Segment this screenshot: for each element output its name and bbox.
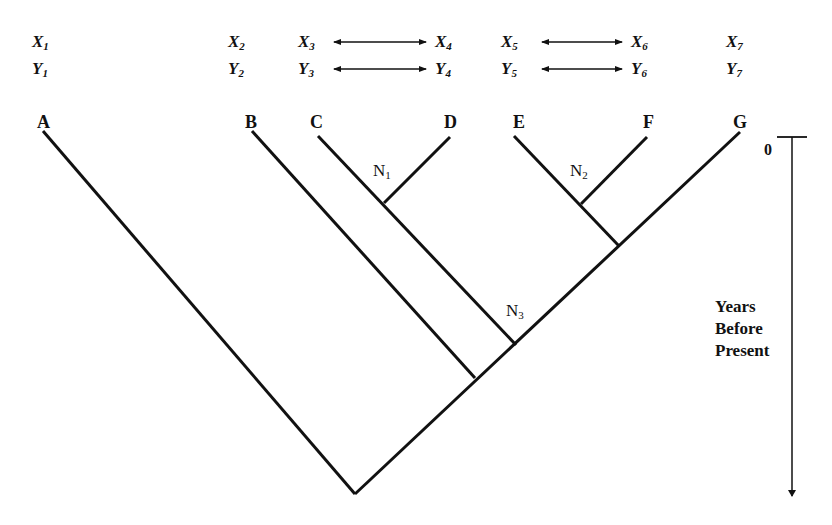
- tree-lines: [0, 0, 832, 525]
- branch-root-g: [355, 132, 740, 494]
- time-axis: [777, 137, 807, 496]
- trait-link-arrows: [334, 42, 622, 69]
- branch-d: [384, 137, 450, 203]
- phylogenetic-tree-diagram: X1 X2 X3 X4 X5 X6 X7 Y1 Y2 Y3 Y4 Y5 Y6 Y…: [0, 0, 832, 525]
- branch-f: [581, 137, 647, 204]
- branch-b: [252, 131, 475, 378]
- branch-e: [514, 136, 619, 246]
- branch-a: [43, 131, 355, 494]
